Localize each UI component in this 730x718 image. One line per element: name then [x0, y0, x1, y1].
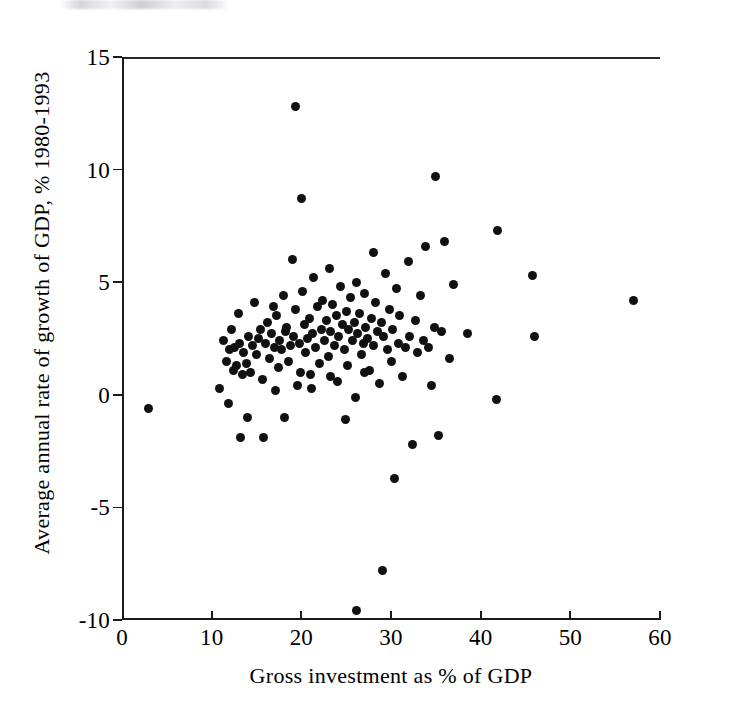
data-point [381, 269, 390, 278]
data-point [311, 343, 320, 352]
plot-area: -10-5051015 0102030405060 [122, 57, 660, 620]
data-point [463, 329, 472, 338]
data-point [296, 368, 305, 377]
data-point [252, 350, 261, 359]
y-tick-label: -5 [90, 496, 110, 519]
data-point [282, 323, 291, 332]
y-tick-mark [113, 394, 122, 396]
y-tick-label: 15 [87, 46, 110, 69]
x-tick-label: 60 [648, 626, 671, 649]
data-point [492, 395, 501, 404]
data-point [227, 325, 236, 334]
data-point [351, 393, 360, 402]
y-tick-label: 10 [87, 158, 110, 181]
x-tick-mark [300, 611, 302, 620]
data-point [530, 332, 539, 341]
data-point [291, 102, 300, 111]
y-axis-line [122, 57, 124, 620]
y-tick-label: 5 [98, 271, 110, 294]
data-point [360, 289, 369, 298]
data-point [307, 384, 316, 393]
data-point [284, 357, 293, 366]
data-point [375, 379, 384, 388]
data-point [449, 280, 458, 289]
data-point [219, 336, 228, 345]
x-tick-mark [480, 611, 482, 620]
data-point [341, 415, 350, 424]
data-point [355, 309, 364, 318]
data-point [274, 363, 283, 372]
x-axis-title: Gross investment as % of GDP [122, 663, 660, 689]
data-point [390, 474, 399, 483]
data-point [383, 345, 392, 354]
data-point [369, 248, 378, 257]
y-tick-label: 0 [98, 383, 110, 406]
data-point [377, 318, 386, 327]
x-tick-mark [569, 611, 571, 620]
data-point [395, 311, 404, 320]
data-point [144, 404, 153, 413]
data-point [332, 311, 341, 320]
data-point [350, 318, 359, 327]
data-point [392, 284, 401, 293]
x-tick-label: 30 [379, 626, 402, 649]
data-point [361, 323, 370, 332]
data-point [346, 293, 355, 302]
data-point [352, 278, 361, 287]
data-point [424, 343, 433, 352]
scatter-plot-figure: -10-5051015 0102030405060 Gross investme… [0, 0, 730, 718]
data-point [293, 381, 302, 390]
data-point [336, 282, 345, 291]
data-point [305, 314, 314, 323]
x-tick-label: 0 [116, 626, 128, 649]
data-point [222, 357, 231, 366]
data-point [239, 348, 248, 357]
data-point [343, 361, 352, 370]
x-tick-label: 20 [290, 626, 313, 649]
data-point [224, 399, 233, 408]
data-point [367, 314, 376, 323]
data-point [342, 307, 351, 316]
y-tick-mark [113, 507, 122, 509]
data-point [309, 273, 318, 282]
data-point [291, 305, 300, 314]
data-point [258, 375, 267, 384]
data-point [246, 368, 255, 377]
data-point [440, 237, 449, 246]
data-point [416, 291, 425, 300]
data-point [265, 354, 274, 363]
data-point [434, 431, 443, 440]
data-point [243, 413, 252, 422]
data-point [325, 264, 334, 273]
zero-reference-line [122, 57, 660, 59]
data-point [322, 316, 331, 325]
data-point [297, 194, 306, 203]
data-point [320, 336, 329, 345]
data-point [437, 327, 446, 336]
data-point [301, 348, 310, 357]
data-point [259, 433, 268, 442]
data-point [411, 316, 420, 325]
x-tick-mark [211, 611, 213, 620]
x-tick-label: 50 [559, 626, 582, 649]
data-point [378, 566, 387, 575]
data-point [326, 372, 335, 381]
data-point [236, 433, 245, 442]
data-point [408, 440, 417, 449]
y-tick-mark [113, 56, 122, 58]
x-tick-mark [659, 611, 661, 620]
data-point [398, 372, 407, 381]
data-point [235, 339, 244, 348]
data-point [318, 296, 327, 305]
y-tick-mark [113, 169, 122, 171]
y-axis-title: Average annual rate of growth of GDP, % … [29, 53, 55, 573]
data-point [279, 291, 288, 300]
x-tick-mark [390, 611, 392, 620]
data-point [272, 311, 281, 320]
data-point [269, 302, 278, 311]
data-point [308, 329, 317, 338]
data-point [298, 287, 307, 296]
data-point [404, 257, 413, 266]
data-point [234, 309, 243, 318]
data-point [629, 296, 638, 305]
